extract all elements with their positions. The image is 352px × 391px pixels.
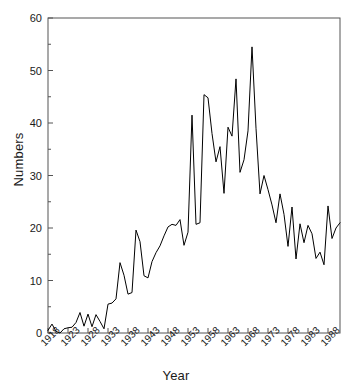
y-tick-label: 10	[16, 276, 42, 287]
y-tick-label: 60	[16, 13, 42, 24]
y-tick-label: 0	[16, 328, 42, 339]
y-tick-label: 30	[16, 171, 42, 182]
data-line-numbers	[48, 47, 340, 333]
y-tick-label: 20	[16, 223, 42, 234]
y-tick-label: 50	[16, 66, 42, 77]
y-tick-label: 40	[16, 118, 42, 129]
chart-figure: Numbers Year 0102030405060 1918192319281…	[0, 0, 352, 391]
